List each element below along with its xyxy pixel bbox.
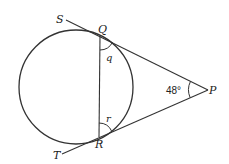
tangent-line-TP — [62, 90, 208, 154]
tangent-line-SP — [66, 20, 208, 90]
circle — [19, 30, 133, 144]
geometry-diagram: S Q P R T q r 48° — [0, 0, 229, 164]
label-P: P — [208, 84, 217, 97]
label-Q: Q — [98, 23, 107, 36]
label-S: S — [56, 13, 64, 26]
angle-arc-r — [99, 123, 112, 131]
label-R: R — [94, 138, 103, 151]
label-angle-q: q — [106, 52, 112, 63]
diagram-svg: S Q P R T q r 48° — [0, 0, 229, 164]
angle-arc-q — [100, 42, 113, 50]
chord-QR — [99, 36, 100, 137]
angle-arc-P — [189, 81, 191, 98]
label-T: T — [53, 149, 62, 162]
label-angle-r: r — [106, 113, 112, 124]
label-angle-48: 48° — [166, 85, 181, 96]
